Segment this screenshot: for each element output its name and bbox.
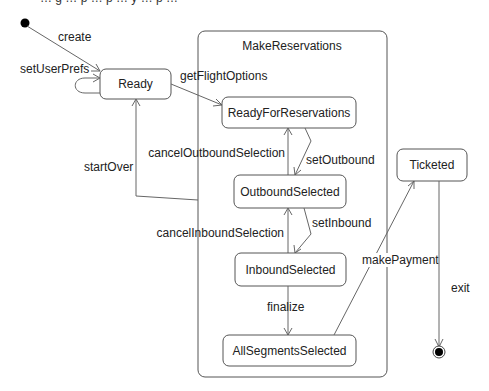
state-ready-for-reservations[interactable]: ReadyForReservations bbox=[222, 97, 356, 128]
label-start-over: startOver bbox=[84, 160, 133, 174]
label-cancel-outbound-selection: cancelOutboundSelection bbox=[148, 146, 285, 160]
composite-state-title: MakeReservations bbox=[242, 39, 341, 53]
transition-set-outbound[interactable] bbox=[294, 128, 311, 175]
label-finalize: finalize bbox=[267, 300, 305, 314]
label-set-user-prefs: setUserPrefs bbox=[20, 62, 89, 76]
label-exit: exit bbox=[451, 281, 470, 295]
transition-get-flight-options[interactable] bbox=[171, 84, 222, 106]
state-outbound-selected[interactable]: OutboundSelected bbox=[234, 175, 346, 208]
state-all-segments-selected[interactable]: AllSegmentsSelected bbox=[223, 335, 356, 366]
state-diagram: … g … p … p … y … p … MakeReservations c… bbox=[0, 0, 489, 391]
state-inbound-selected[interactable]: InboundSelected bbox=[235, 253, 346, 286]
state-ticketed[interactable]: Ticketed bbox=[397, 149, 467, 181]
label-cancel-inbound-selection: cancelInboundSelection bbox=[157, 226, 284, 240]
state-all-segments-selected-label: AllSegmentsSelected bbox=[232, 344, 346, 358]
label-set-outbound: setOutbound bbox=[306, 153, 375, 167]
state-inbound-selected-label: InboundSelected bbox=[245, 263, 335, 277]
state-ready-label: Ready bbox=[118, 77, 153, 91]
label-set-inbound: setInbound bbox=[312, 216, 371, 230]
final-state[interactable] bbox=[433, 346, 445, 358]
transition-set-inbound[interactable] bbox=[294, 208, 311, 253]
label-make-payment: makePayment bbox=[362, 253, 439, 267]
state-outbound-selected-label: OutboundSelected bbox=[240, 185, 339, 199]
label-get-flight-options: getFlightOptions bbox=[180, 69, 267, 83]
state-ticketed-label: Ticketed bbox=[410, 158, 455, 172]
label-create: create bbox=[58, 30, 92, 44]
top-cut-text: … g … p … p … y … p … bbox=[40, 0, 178, 5]
transition-set-user-prefs[interactable] bbox=[75, 74, 100, 93]
state-ready[interactable]: Ready bbox=[100, 69, 171, 99]
state-ready-for-reservations-label: ReadyForReservations bbox=[228, 106, 351, 120]
transition-cancel-inbound-selection[interactable] bbox=[284, 208, 292, 253]
transition-cancel-outbound-selection[interactable] bbox=[284, 128, 292, 175]
